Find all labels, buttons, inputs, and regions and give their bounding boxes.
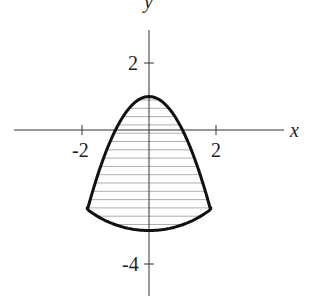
x-tick-label-neg2: -2 bbox=[72, 139, 89, 161]
region-plot: y x -2 2 2 -4 bbox=[0, 0, 311, 304]
y-axis-label: y bbox=[142, 0, 153, 13]
x-axis-label: x bbox=[289, 119, 299, 141]
x-tick-label-2: 2 bbox=[211, 139, 221, 161]
y-tick-label-2: 2 bbox=[128, 52, 138, 74]
y-tick-label-neg4: -4 bbox=[122, 253, 139, 275]
